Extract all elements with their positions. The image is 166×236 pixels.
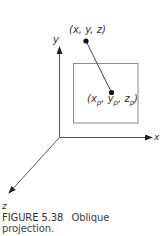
- z-axis: [9, 138, 60, 194]
- figure-title-line1: Oblique: [71, 212, 109, 223]
- projected-point-label: (xp, yp, zp): [87, 93, 138, 107]
- projector-line: [86, 41, 112, 93]
- source-point-label: (x, y, z): [69, 24, 106, 35]
- x-axis-label: x: [153, 132, 160, 142]
- figure-number: FIGURE 5.38: [2, 212, 63, 223]
- figure-title-line2: projection.: [2, 223, 54, 234]
- oblique-projection-diagram: y x z (x, y, z) (xp, yp, zp): [0, 0, 166, 236]
- figure-caption: FIGURE 5.38Oblique projection.: [2, 212, 166, 234]
- source-point: [83, 38, 88, 43]
- z-axis-label: z: [1, 201, 7, 211]
- y-axis-label: y: [52, 34, 60, 45]
